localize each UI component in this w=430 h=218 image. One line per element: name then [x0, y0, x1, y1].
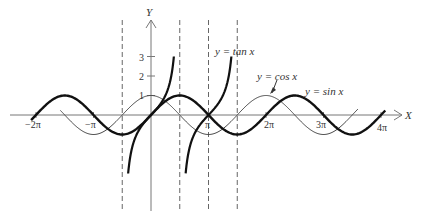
x-tick-label-4pi: 4π: [377, 122, 387, 133]
x-tick-label-pi: π: [205, 119, 210, 130]
cos-label: y = cos x: [256, 70, 297, 82]
y-tick-label-2: 2: [139, 71, 144, 82]
sin-label: y = sin x: [304, 85, 343, 97]
cos-arrowhead-icon: [270, 87, 276, 94]
x-tick-label-m2pi: −2π: [25, 119, 41, 130]
y-tick-label-1: 1: [139, 90, 144, 101]
y-axis-label: Y: [146, 6, 154, 18]
x-axis-label: X: [404, 109, 413, 121]
trig-functions-chart: Y X 1 2 3 −2π −π π 2π 3π 4π y = tan x y …: [0, 0, 430, 218]
x-tick-label-2pi: 2π: [264, 119, 274, 130]
x-tick-label-3pi: 3π: [316, 119, 326, 130]
x-tick-label-mpi: −π: [85, 119, 96, 130]
y-tick-label-3: 3: [139, 52, 144, 63]
tan-label: y = tan x: [214, 45, 255, 57]
